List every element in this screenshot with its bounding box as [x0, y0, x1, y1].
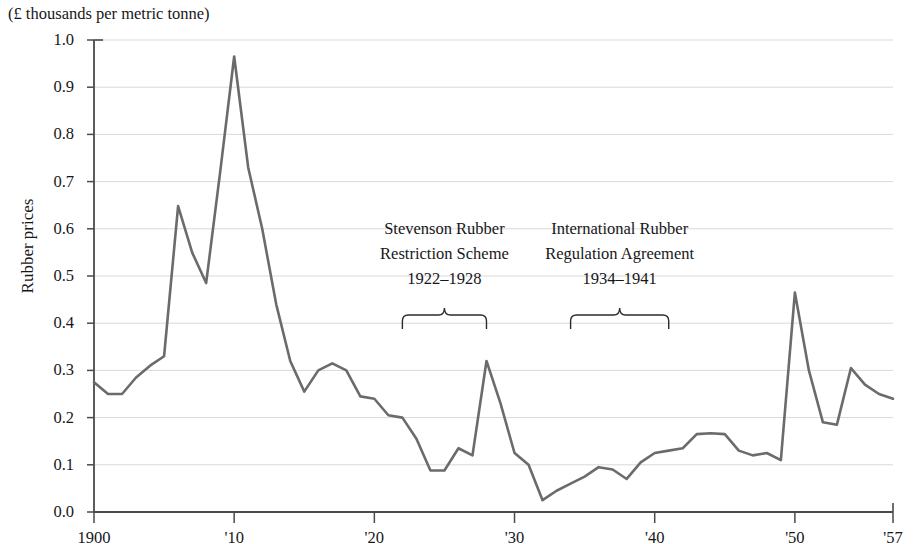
annotation-international-line2: Regulation Agreement: [545, 241, 694, 266]
annotation-international-line1: International Rubber: [545, 216, 694, 241]
x-tick-label: '50: [785, 530, 804, 544]
x-tick-label: '57: [883, 530, 902, 544]
x-tick-label: '40: [645, 530, 664, 544]
annotation-stevenson-line2: Restriction Scheme: [380, 241, 509, 266]
x-tick-label: '20: [365, 530, 384, 544]
x-tick-label: '10: [224, 530, 243, 544]
annotation-international-line3: 1934–1941: [545, 266, 694, 291]
annotation-stevenson-line1: Stevenson Rubber: [380, 216, 509, 241]
annotation-stevenson-line3: 1922–1928: [380, 266, 509, 291]
annotation-text-stevenson: Stevenson RubberRestriction Scheme1922–1…: [380, 216, 509, 291]
annotation-bracket-international: [571, 308, 669, 329]
annotation-bracket-stevenson: [402, 308, 486, 329]
x-axis-ticks: [94, 512, 893, 523]
y-axis-ticks: [87, 40, 94, 512]
x-tick-label: 1900: [78, 530, 111, 544]
x-tick-label: '30: [505, 530, 524, 544]
annotation-text-international: International RubberRegulation Agreement…: [545, 216, 694, 291]
rubber-prices-chart-figure: (£ thousands per metric tonne) Rubber pr…: [0, 0, 921, 544]
annotation-brackets: [402, 308, 668, 329]
